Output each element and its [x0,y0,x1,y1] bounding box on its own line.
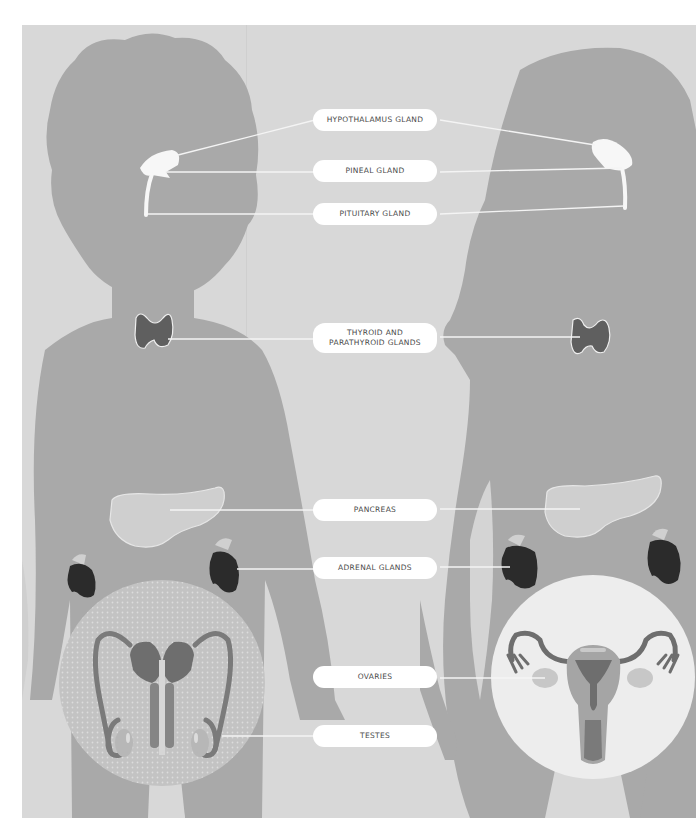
endocrine-illustration [22,25,696,818]
label-pancreas: PANCREAS [313,499,437,521]
label-hypothalamus-gland: HYPOTHALAMUS GLAND [313,109,437,131]
label-ovaries: OVARIES [313,666,437,688]
arm-gap [22,560,28,700]
label-testes: TESTES [313,725,437,747]
label-adrenal-glands: ADRENAL GLANDS [313,557,437,579]
label-thyroid-parathyroid-glands: THYROID AND PARATHYROID GLANDS [313,323,437,353]
illustration-panel: HYPOTHALAMUS GLAND PINEAL GLAND PITUITAR… [22,25,696,818]
female-reproductive-inset [491,575,695,779]
male-reproductive-inset [59,580,265,786]
label-pineal-gland: PINEAL GLAND [313,160,437,182]
label-pituitary-gland: PITUITARY GLAND [313,203,437,225]
